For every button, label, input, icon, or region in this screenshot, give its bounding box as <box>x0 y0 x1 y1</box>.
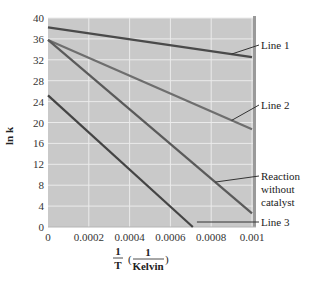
plot-area <box>48 16 256 227</box>
label-reaction-1: Reaction <box>261 170 301 182</box>
y-axis-ticks: 0481216202428323640 <box>33 12 45 233</box>
x-tick-label: 0.0004 <box>114 231 145 243</box>
chart: 0481216202428323640 00.00020.00040.00060… <box>0 0 324 281</box>
label-reaction-3: catalyst <box>261 196 295 208</box>
x-tick-label: 0.0008 <box>196 231 227 243</box>
x-label-den: T <box>114 259 122 271</box>
y-tick-label: 40 <box>33 12 45 24</box>
x-unit-den: Kelvin <box>132 260 163 272</box>
y-tick-label: 36 <box>33 33 45 45</box>
x-label-paren-close: ) <box>165 253 169 266</box>
x-axis-label: 1 T ( 1 Kelvin ) <box>113 245 169 272</box>
y-tick-label: 12 <box>33 158 44 170</box>
x-tick-label: 0.0006 <box>155 231 186 243</box>
y-tick-label: 4 <box>39 200 45 212</box>
x-unit-num: 1 <box>145 246 151 258</box>
y-tick-label: 8 <box>39 179 45 191</box>
x-label-paren-open: ( <box>128 253 132 266</box>
y-axis-label: ln k <box>3 126 15 145</box>
x-axis-ticks: 00.00020.00040.00060.00080.001 <box>45 231 264 243</box>
y-tick-label: 20 <box>33 117 45 129</box>
x-tick-label: 0.0002 <box>74 231 104 243</box>
plot-frame-right <box>253 16 256 227</box>
y-tick-label: 0 <box>39 221 45 233</box>
label-reaction-2: without <box>261 183 295 195</box>
y-tick-label: 16 <box>33 137 45 149</box>
label-line-1: Line 1 <box>261 39 289 51</box>
label-line-2: Line 2 <box>261 99 289 111</box>
y-axis-title: ln k <box>3 126 15 145</box>
x-tick-label: 0 <box>45 231 51 243</box>
y-tick-label: 24 <box>33 96 45 108</box>
x-label-num: 1 <box>115 245 121 257</box>
y-tick-label: 28 <box>33 75 45 87</box>
y-tick-label: 32 <box>33 54 44 66</box>
label-line-3: Line 3 <box>261 216 290 228</box>
x-tick-label: 0.001 <box>240 231 265 243</box>
